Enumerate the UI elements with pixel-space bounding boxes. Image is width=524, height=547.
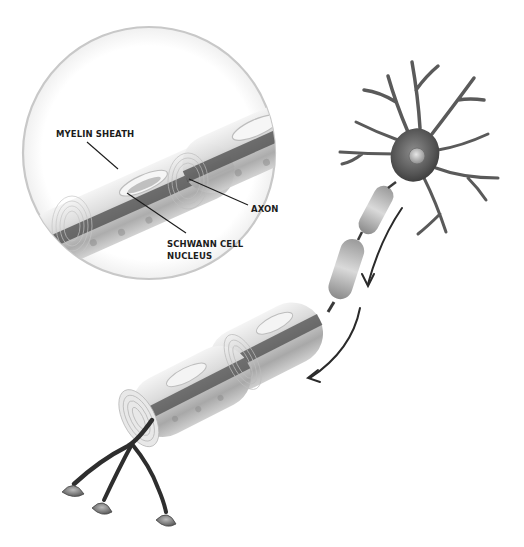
- terminal-branch: [132, 444, 166, 512]
- signal-direction-arrows: [308, 208, 402, 382]
- label-text-myelin-sheath: MYELIN SHEATH: [56, 129, 134, 139]
- node-of-ranvier: [388, 182, 396, 188]
- arrow-upper-head: [362, 274, 374, 286]
- synaptic-terminal: [62, 485, 84, 496]
- label-text-axon: AXON: [251, 204, 279, 214]
- cell-body: [383, 121, 447, 188]
- synaptic-terminal: [92, 503, 112, 514]
- nucleus: [409, 148, 425, 164]
- myelin-segment-2: [325, 236, 367, 302]
- synaptic-terminal: [156, 515, 176, 526]
- node-of-ranvier: [328, 302, 334, 312]
- inset-magnified-view: MYELIN SHEATH AXON SCHWANN CELL NUCLEUS: [19, 27, 334, 279]
- label-text-schwann-line1: SCHWANN CELL: [167, 239, 244, 249]
- myelin-segment-1: [355, 182, 397, 237]
- label-text-schwann-line2: NUCLEUS: [167, 251, 212, 261]
- neuron-diagram: MYELIN SHEATH AXON SCHWANN CELL NUCLEUS: [0, 0, 524, 547]
- node-of-ranvier: [358, 232, 362, 240]
